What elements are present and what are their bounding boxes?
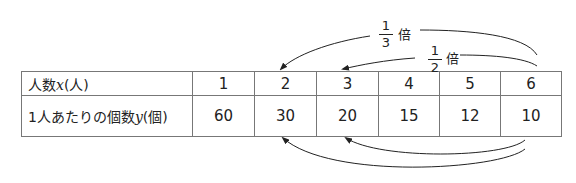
fraction-one-third: 1 3 — [379, 19, 393, 50]
denominator: 3 — [379, 36, 393, 50]
times-label: 倍 — [398, 24, 411, 43]
denominator: 2 — [428, 61, 442, 75]
arrows-layer — [0, 0, 576, 183]
numerator: 1 — [379, 19, 393, 33]
fraction-one-half: 1 2 — [428, 44, 442, 75]
arrow-icon — [346, 138, 525, 154]
arrow-icon — [281, 36, 370, 69]
arrow-icon — [343, 58, 415, 69]
arrow-icon — [460, 55, 537, 66]
inverse-proportion-figure: 人数x(人) 1 2 3 4 5 6 1人あたりの個数y(個) 60 30 20… — [0, 0, 576, 183]
numerator: 1 — [428, 44, 442, 58]
times-label: 倍 — [446, 48, 459, 67]
